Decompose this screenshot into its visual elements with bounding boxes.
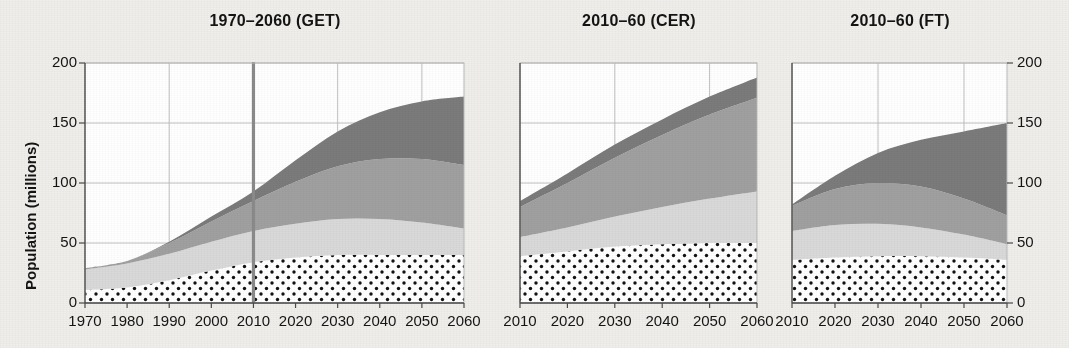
y-tick-label-left-150: 150: [29, 113, 77, 130]
y-tick-label-right-0: 0: [1017, 293, 1065, 310]
panel-title-cer: 2010–60 (CER): [489, 12, 789, 30]
x-tick-label-cer-2010: 2010: [494, 312, 546, 329]
band-dotted-ft: [792, 256, 1007, 303]
x-tick-label-ft-2060: 2060: [981, 312, 1033, 329]
x-tick-label-cer-2050: 2050: [684, 312, 736, 329]
x-tick-label-get-2060: 2060: [438, 312, 490, 329]
x-tick-label-cer-2020: 2020: [541, 312, 593, 329]
chart-canvas: [0, 0, 1069, 348]
y-tick-label-left-0: 0: [29, 293, 77, 310]
y-tick-label-right-100: 100: [1017, 173, 1065, 190]
panel-title-ft: 2010–60 (FT): [750, 12, 1050, 30]
y-axis-title: Population (millions): [22, 142, 39, 290]
figure-root: 1970–2060 (GET)1970198019902000201020202…: [0, 0, 1069, 348]
panel-cer: [520, 63, 757, 308]
x-tick-label-cer-2030: 2030: [589, 312, 641, 329]
y-tick-label-right-150: 150: [1017, 113, 1065, 130]
x-tick-label-cer-2040: 2040: [636, 312, 688, 329]
y-tick-label-right-50: 50: [1017, 233, 1065, 250]
y-tick-label-right-200: 200: [1017, 53, 1065, 70]
panel-title-get: 1970–2060 (GET): [125, 12, 425, 30]
panel-get: [79, 62, 464, 308]
panel-ft: [792, 63, 1013, 308]
y-tick-label-left-200: 200: [29, 53, 77, 70]
